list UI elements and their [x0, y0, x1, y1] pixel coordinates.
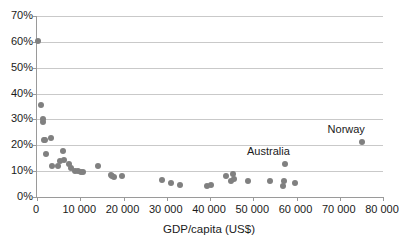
y-tick-mark [33, 68, 37, 69]
data-point [43, 151, 49, 157]
data-point [267, 178, 273, 184]
x-tick-label: 40 000 [192, 204, 226, 215]
data-point [159, 177, 165, 183]
data-point [111, 174, 117, 180]
x-tick-label: 30 000 [149, 204, 183, 215]
data-point [231, 176, 237, 182]
y-tick-mark [33, 94, 37, 95]
data-point [48, 135, 54, 141]
gridline-y [37, 42, 383, 43]
data-point [282, 161, 288, 167]
y-tick-mark [33, 16, 37, 17]
x-tick-mark [167, 197, 168, 201]
y-tick-label: 20% [1, 139, 33, 150]
gridline-y [37, 94, 383, 95]
x-tick-label: 60 000 [279, 204, 313, 215]
x-tick-mark [37, 197, 38, 201]
gridline-y [37, 68, 383, 69]
y-tick-mark [33, 119, 37, 120]
y-tick-mark [33, 171, 37, 172]
y-tick-mark [33, 197, 37, 198]
data-point [280, 183, 286, 189]
x-axis-title: GDP/capita (US$) [36, 223, 382, 235]
data-point [245, 178, 251, 184]
data-point [168, 180, 174, 186]
x-tick-label: 70 000 [322, 204, 356, 215]
point-label-australia: Australia [247, 145, 290, 157]
x-tick-mark [124, 197, 125, 201]
x-tick-label: 20 000 [106, 204, 140, 215]
x-tick-label: 0 [33, 204, 39, 215]
x-tick-mark [297, 197, 298, 201]
x-tick-mark [80, 197, 81, 201]
data-point [40, 119, 46, 125]
data-point [95, 163, 101, 169]
chart-screenshot: 0%10%20%30%40%50%60%70% NorwayAustralia … [0, 0, 399, 244]
data-point [177, 182, 183, 188]
y-tick-mark [33, 145, 37, 146]
data-point [38, 102, 44, 108]
x-tick-mark [210, 197, 211, 201]
data-point [55, 163, 61, 169]
data-point [359, 139, 365, 145]
data-point [80, 169, 86, 175]
gridline-y [37, 16, 383, 17]
y-tick-label: 70% [1, 10, 33, 21]
y-tick-label: 30% [1, 113, 33, 124]
x-tick-label: 80 000 [365, 204, 399, 215]
x-tick-mark [383, 197, 384, 201]
x-tick-label: 50 000 [235, 204, 269, 215]
y-tick-label: 50% [1, 62, 33, 73]
point-label-norway: Norway [328, 123, 365, 135]
x-tick-mark [253, 197, 254, 201]
x-tick-label: 10 000 [62, 204, 96, 215]
plot-area: NorwayAustralia [36, 16, 383, 198]
data-point [42, 137, 48, 143]
data-point [60, 148, 66, 154]
data-point [292, 180, 298, 186]
data-point [119, 173, 125, 179]
y-tick-label: 60% [1, 36, 33, 47]
data-point [208, 182, 214, 188]
gridline-y [37, 171, 383, 172]
x-axis-tick-labels: 010 00020 00030 00040 00050 00060 00070 … [36, 204, 382, 218]
gridline-y [37, 119, 383, 120]
gridline-y [37, 145, 383, 146]
x-tick-mark [340, 197, 341, 201]
y-tick-label: 40% [1, 88, 33, 99]
y-axis-tick-labels: 0%10%20%30%40%50%60%70% [0, 16, 33, 197]
y-tick-label: 0% [1, 191, 33, 202]
y-tick-label: 10% [1, 165, 33, 176]
data-point [35, 38, 41, 44]
